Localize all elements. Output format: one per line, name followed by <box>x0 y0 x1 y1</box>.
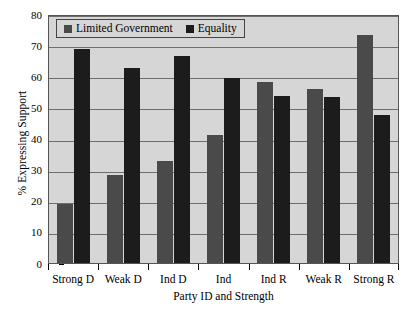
x-axis-tick-mark <box>299 264 300 270</box>
legend-swatch-icon-equality <box>186 25 194 33</box>
bar <box>324 97 340 263</box>
bar <box>357 35 373 263</box>
bar-group <box>49 16 99 263</box>
x-axis-tick-mark <box>349 264 350 270</box>
bar-chart-figure: % Expressing Support 01020304050607080 S… <box>0 0 415 315</box>
y-axis-tick-label: 50 <box>16 102 42 115</box>
bars-layer <box>49 16 398 263</box>
x-axis-tick-mark <box>249 264 250 270</box>
x-axis-tick-mark <box>198 264 199 270</box>
x-axis-tick-mark <box>48 264 49 270</box>
bar-group <box>149 16 199 263</box>
bar-group <box>248 16 298 263</box>
x-axis-tick-mark <box>98 264 99 270</box>
bar <box>107 175 123 263</box>
y-axis-tick-label: 40 <box>16 133 42 146</box>
x-axis-title: Party ID and Strength <box>48 289 399 304</box>
bar <box>257 82 273 263</box>
legend-entry-limited-government: Limited Government <box>64 22 173 35</box>
x-axis-tick-label: Ind R <box>249 271 299 287</box>
bar <box>157 161 173 263</box>
legend-entry-equality: Equality <box>186 22 237 35</box>
bar <box>124 68 140 263</box>
x-axis-tick-label: Weak R <box>299 271 349 287</box>
x-axis-tick-label: Ind <box>198 271 248 287</box>
y-axis-tick-label: 0 <box>16 258 42 271</box>
plot-area <box>48 15 399 264</box>
bar-group <box>99 16 149 263</box>
bar <box>274 96 290 263</box>
x-axis-tick-label: Ind D <box>148 271 198 287</box>
x-axis-tick-label: Strong D <box>48 271 98 287</box>
bar <box>174 56 190 263</box>
bar <box>224 78 240 263</box>
bar-group <box>348 16 398 263</box>
legend-swatch-icon-limited-government <box>64 25 72 33</box>
y-axis-tick-label: 70 <box>16 40 42 53</box>
bar-group <box>199 16 249 263</box>
bar <box>207 135 223 263</box>
bar <box>57 204 73 263</box>
y-axis-tick-label: 30 <box>16 164 42 177</box>
legend-label-equality: Equality <box>198 22 237 35</box>
y-axis-tick-label: 10 <box>16 226 42 239</box>
bar <box>307 89 323 263</box>
x-axis-tick-mark <box>398 264 399 270</box>
bar <box>74 49 90 263</box>
y-axis-tick-label: 80 <box>16 9 42 22</box>
bar <box>374 115 390 263</box>
y-axis-tick-label: 20 <box>16 195 42 208</box>
x-axis-tick-label: Strong R <box>349 271 399 287</box>
x-axis-tick-label: Weak D <box>98 271 148 287</box>
y-axis-tick-label: 60 <box>16 71 42 84</box>
x-axis-tick-labels: Strong DWeak DInd DIndInd RWeak RStrong … <box>48 271 399 287</box>
x-axis-tick-mark <box>148 264 149 270</box>
y-axis-tick-labels: 01020304050607080 <box>16 9 42 265</box>
chart-legend: Limited Government Equality <box>56 19 245 38</box>
x-axis-tick-marks <box>48 264 399 270</box>
legend-label-limited-government: Limited Government <box>76 22 173 35</box>
bar-group <box>298 16 348 263</box>
